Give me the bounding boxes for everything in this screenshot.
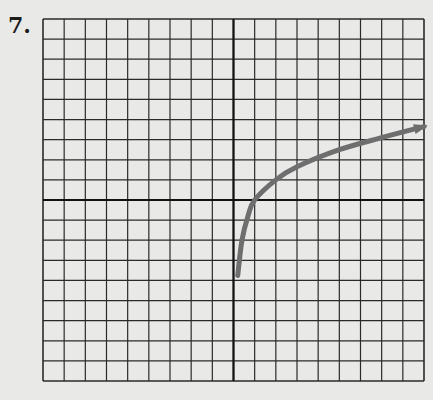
arrow-head-icon [413, 124, 428, 134]
coordinate-grid [0, 0, 433, 400]
axes [43, 19, 424, 381]
